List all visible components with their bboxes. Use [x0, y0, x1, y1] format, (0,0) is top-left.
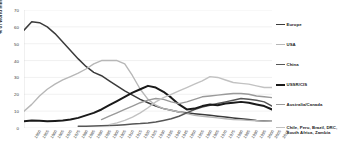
- series-canvas: [24, 10, 272, 128]
- x-tick-label: 1990: [250, 129, 259, 139]
- legend-item-usa[interactable]: USA: [276, 42, 347, 47]
- x-tick-label: 1910: [126, 129, 135, 139]
- legend-item-chile[interactable]: Chile, Peru, Brazil, DRC, South Africa, …: [276, 125, 347, 135]
- x-tick-label: 1895: [103, 129, 112, 139]
- x-tick-label: 1850: [33, 129, 42, 139]
- mining-share-line-chart: % of world mining 010203040506070 185018…: [0, 0, 347, 155]
- y-tick-label: 0: [0, 126, 19, 131]
- x-tick-label: 1890: [95, 129, 104, 139]
- legend-item-ussr[interactable]: USSR/CIS: [276, 82, 347, 87]
- legend-swatch-icon: [276, 84, 285, 86]
- x-tick-label: 1875: [72, 129, 81, 139]
- x-tick-label: 1995: [258, 129, 267, 139]
- y-tick-label: 70: [0, 8, 19, 13]
- legend-item-china[interactable]: China: [276, 62, 347, 67]
- chart-legend: EuropeUSAChinaUSSR/CISAustralia/CanadaCh…: [276, 10, 347, 135]
- x-tick-label: 1935: [165, 129, 174, 139]
- x-tick-label: 1975: [227, 129, 236, 139]
- x-tick-label: 1955: [196, 129, 205, 139]
- legend-swatch-icon: [276, 64, 285, 65]
- plot-area: [24, 10, 272, 128]
- legend-label: USA: [287, 42, 296, 47]
- legend-swatch-icon: [276, 104, 285, 105]
- legend-label: Australia/Canada: [287, 102, 323, 107]
- y-tick-label: 50: [0, 41, 19, 46]
- x-tick-label: 1870: [64, 129, 73, 139]
- x-tick-label: 1950: [188, 129, 197, 139]
- y-tick-label: 30: [0, 75, 19, 80]
- legend-label: USSR/CIS: [287, 82, 308, 87]
- legend-label: Europe: [287, 22, 302, 27]
- legend-item-australia[interactable]: Australia/Canada: [276, 102, 347, 107]
- y-axis-ticks: 010203040506070: [0, 10, 22, 128]
- legend-item-europe[interactable]: Europe: [276, 22, 347, 27]
- legend-label: Chile, Peru, Brazil, DRC, South Africa, …: [287, 125, 347, 135]
- x-axis-ticks: 1850185518601865187018751880188518901895…: [24, 129, 272, 155]
- legend-swatch-icon: [276, 44, 285, 45]
- y-tick-label: 10: [0, 109, 19, 114]
- legend-swatch-icon: [276, 24, 285, 25]
- x-tick-label: 1915: [134, 129, 143, 139]
- y-tick-label: 60: [0, 24, 19, 29]
- x-tick-label: 1930: [157, 129, 166, 139]
- x-tick-label: 1855: [41, 129, 50, 139]
- legend-swatch-icon: [276, 127, 285, 128]
- legend-label: China: [287, 62, 299, 67]
- x-tick-label: 1970: [219, 129, 228, 139]
- y-tick-label: 40: [0, 58, 19, 63]
- y-tick-label: 20: [0, 92, 19, 97]
